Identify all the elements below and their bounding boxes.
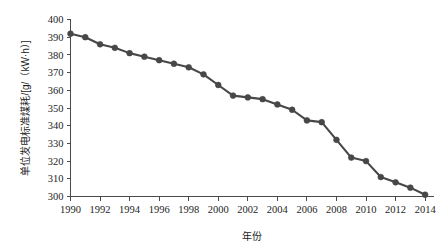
data-point-marker (289, 107, 295, 113)
data-series-markers (68, 31, 428, 198)
y-tick-label: 380 (48, 50, 64, 61)
x-tick-label: 2014 (415, 204, 437, 215)
data-point-marker (378, 174, 384, 180)
x-axis-tick-marks (71, 197, 426, 201)
y-tick-label: 310 (48, 173, 64, 184)
x-tick-label: 1990 (60, 204, 81, 215)
y-tick-label: 320 (48, 156, 64, 167)
data-point-marker (230, 93, 236, 99)
data-point-marker (201, 71, 207, 77)
y-tick-label: 400 (48, 14, 64, 25)
x-tick-label: 2000 (208, 204, 229, 215)
chart-figure: 300310320330340350360370380390400 199019… (0, 0, 446, 248)
data-point-marker (112, 45, 118, 51)
data-point-marker (127, 50, 133, 56)
y-tick-label: 350 (48, 103, 64, 114)
x-axis-title: 年份 (242, 230, 262, 242)
data-point-marker (363, 158, 369, 164)
data-point-marker (348, 155, 354, 161)
y-tick-label: 370 (48, 67, 64, 78)
x-tick-label: 2002 (237, 204, 258, 215)
data-point-marker (304, 117, 310, 123)
x-tick-label: 2004 (267, 204, 289, 215)
data-point-marker (407, 185, 413, 191)
x-tick-label: 2006 (296, 204, 317, 215)
x-tick-label: 2008 (326, 204, 347, 215)
y-axis-tick-labels: 300310320330340350360370380390400 (48, 14, 64, 202)
data-series-line (71, 34, 426, 195)
x-tick-label: 1998 (178, 204, 199, 215)
y-tick-label: 330 (48, 138, 64, 149)
x-tick-label: 2012 (385, 204, 406, 215)
data-point-marker (245, 94, 251, 100)
x-tick-label: 2010 (356, 204, 377, 215)
data-point-marker (186, 64, 192, 70)
y-tick-label: 390 (48, 32, 64, 43)
y-tick-label: 360 (48, 85, 64, 96)
data-point-marker (171, 61, 177, 67)
data-point-marker (68, 31, 74, 37)
data-point-marker (82, 34, 88, 40)
x-tick-label: 1992 (90, 204, 111, 215)
data-point-marker (156, 57, 162, 63)
data-point-marker (141, 54, 147, 60)
x-axis-tick-labels: 1990199219941996199820002002200420062008… (60, 204, 436, 215)
data-point-marker (422, 192, 428, 198)
line-chart: 300310320330340350360370380390400 199019… (0, 0, 446, 248)
data-point-marker (97, 41, 103, 47)
data-point-marker (260, 96, 266, 102)
y-axis-title: 单位发电标准煤耗/[g/（kW·h）] (19, 40, 31, 175)
data-point-marker (393, 179, 399, 185)
data-point-marker (319, 119, 325, 125)
x-tick-label: 1994 (119, 204, 141, 215)
data-point-marker (334, 137, 340, 143)
data-point-marker (274, 102, 280, 108)
y-tick-label: 300 (48, 191, 64, 202)
data-point-marker (215, 82, 221, 88)
y-axis-tick-marks (67, 20, 71, 197)
x-tick-label: 1996 (149, 204, 170, 215)
y-tick-label: 340 (48, 120, 64, 131)
